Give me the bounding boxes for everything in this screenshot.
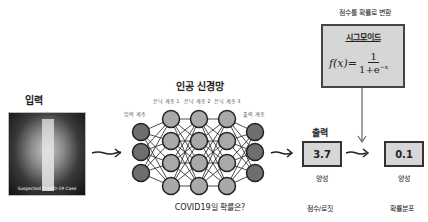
layer-label-input: 입력 계층	[124, 110, 146, 117]
network-node	[219, 133, 236, 150]
network-node	[219, 111, 236, 128]
layer-label-hidden2: 은닉 계층 2	[184, 97, 210, 104]
network-node	[191, 133, 208, 150]
probability-value: 0.1	[395, 149, 413, 160]
network-node	[163, 178, 180, 195]
formula-numerator: 1	[368, 51, 378, 63]
network-node	[247, 124, 264, 141]
network-node	[191, 111, 208, 128]
probability-caption: 확률분포	[376, 203, 428, 213]
layer-label-output: 출력 계층	[243, 110, 265, 117]
formula-exponent: −x	[380, 63, 388, 70]
probability-label: 양성	[386, 173, 422, 183]
probability-box: 0.1	[384, 141, 424, 167]
network-question: COVID19일 확률은?	[160, 201, 260, 212]
output-title: 출력	[300, 126, 340, 139]
arrow-input-to-network	[92, 149, 121, 157]
network-node	[163, 111, 180, 128]
network-node	[191, 178, 208, 195]
network-node	[219, 155, 236, 172]
layer-label-hidden1: 은닉 계층 1	[153, 97, 179, 104]
network-title: 인공 신경망	[150, 78, 250, 93]
score-caption: 점수/로짓	[294, 203, 346, 213]
formula-denominator: 1+e	[359, 64, 380, 75]
network-node	[133, 165, 150, 182]
arrow-output-to-probability	[346, 149, 368, 157]
sigmoid-header: 점수를 확률로 변환	[325, 7, 405, 17]
network-connections	[141, 119, 255, 186]
network-node	[133, 124, 150, 141]
network-node	[163, 155, 180, 172]
score-label: 양성	[304, 173, 340, 183]
network-node	[163, 133, 180, 150]
arrow-network-to-output	[271, 149, 292, 157]
layer-label-hidden3: 은닉 계층 3	[214, 97, 240, 104]
network-node	[191, 155, 208, 172]
arrow-sigmoid-down	[358, 86, 366, 142]
network-node	[133, 144, 150, 161]
sigmoid-title: 시그모이드	[323, 31, 403, 42]
network-node	[247, 144, 264, 161]
sigmoid-formula: f(x)= 1 1+e−x	[329, 46, 399, 80]
formula-lhs: f(x)=	[329, 57, 357, 70]
network-node	[219, 178, 236, 195]
score-box: 3.7	[302, 141, 342, 167]
score-value: 3.7	[313, 149, 331, 160]
sigmoid-box: 시그모이드 f(x)= 1 1+e−x	[321, 24, 405, 88]
network-node	[247, 165, 264, 182]
